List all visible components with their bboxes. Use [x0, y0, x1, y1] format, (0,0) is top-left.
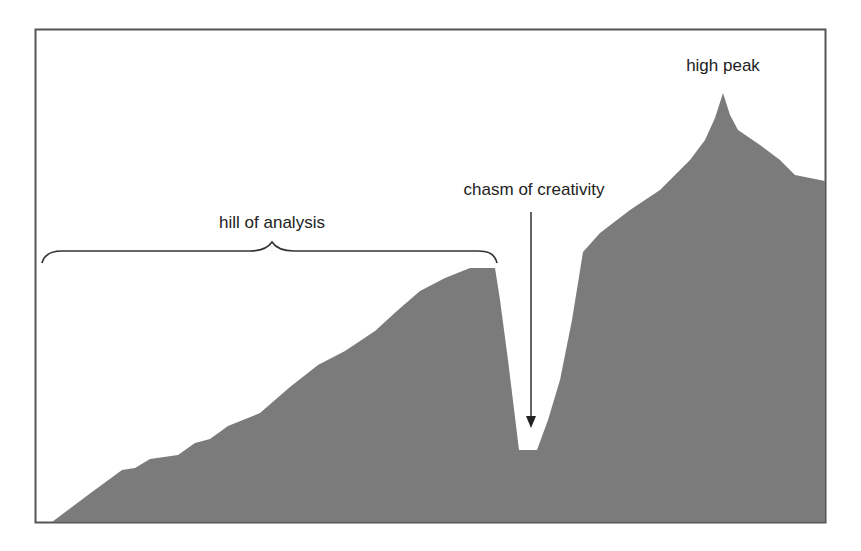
chasm-label: chasm of creativity: [464, 180, 605, 200]
hill-label: hill of analysis: [219, 213, 325, 233]
high-peak-label: high peak: [686, 56, 760, 76]
landscape-diagram: [0, 0, 861, 551]
